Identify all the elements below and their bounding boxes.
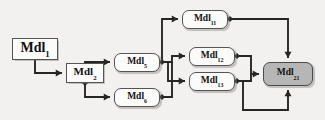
arrowhead-e-mdl5-mdl11 [172,15,178,22]
node-label-mdl11: Mdl11 [194,14,216,26]
node-label-base-mdl21: Mdl [277,67,294,77]
node-label-mdl12: Mdl12 [201,51,224,63]
node-label-mdl21: Mdl21 [277,68,300,80]
connector-e-mdl5-mdl13 [168,62,185,81]
node-label-subscript-mdl5: 5 [144,63,147,69]
block-diagram: Mdl1Mdl2Mdl5Mdl6Mdl11Mdl12Mdl13Mdl21 [0,0,325,120]
arrowhead-e-mdl12-mdl21 [253,70,259,77]
connector-layer [0,0,325,120]
node-mdl2[interactable]: Mdl2 [66,63,104,83]
connector-e-mdl13-mdl21 [237,74,251,81]
node-mdl6[interactable]: Mdl6 [114,88,160,107]
node-mdl13[interactable]: Mdl13 [189,72,235,91]
node-label-base-mdl2: Mdl [74,65,94,77]
arrowhead-e-mdl1-mdl2 [56,69,62,76]
node-mdl21[interactable]: Mdl21 [263,62,313,86]
node-label-base-mdl5: Mdl [127,56,144,66]
arrowhead-e-mdl13-mdl21-bottom [284,90,291,96]
node-label-mdl6: Mdl6 [127,92,147,104]
node-label-subscript-mdl1: 1 [45,49,49,59]
node-label-subscript-mdl2: 2 [93,74,96,81]
node-label-subscript-mdl13: 13 [218,82,224,88]
node-label-mdl2: Mdl2 [74,66,97,80]
node-label-mdl5: Mdl5 [127,57,147,69]
node-label-base-mdl12: Mdl [201,50,218,60]
connector-e-mdl11-mdl21 [230,19,288,58]
arrowhead-e-mdl11-mdl21 [284,52,291,58]
arrowhead-e-mdl2-mdl6 [104,93,110,100]
node-label-subscript-mdl12: 12 [218,57,224,63]
arrowhead-e-mdl5-mdl12 [179,52,185,59]
connector-e-mdl6-mdl12 [162,62,172,97]
node-label-mdl13: Mdl13 [201,76,224,88]
arrowhead-e-mdl2-mdl5 [104,58,110,65]
node-mdl11[interactable]: Mdl11 [182,10,228,29]
node-mdl12[interactable]: Mdl12 [189,47,235,66]
arrowhead-e-mdl5-mdl13 [179,77,185,84]
node-label-subscript-mdl11: 11 [211,20,216,26]
node-mdl1[interactable]: Mdl1 [12,38,58,60]
connector-e-mdl12-mdl21 [237,56,259,74]
node-label-subscript-mdl6: 6 [144,98,147,104]
node-label-subscript-mdl21: 21 [294,75,300,81]
node-label-base-mdl1: Mdl [20,40,45,55]
node-mdl5[interactable]: Mdl5 [114,53,160,72]
node-label-base-mdl13: Mdl [201,75,218,85]
node-label-base-mdl6: Mdl [127,91,144,101]
node-label-mdl1: Mdl1 [20,41,49,57]
node-label-base-mdl11: Mdl [194,13,211,23]
